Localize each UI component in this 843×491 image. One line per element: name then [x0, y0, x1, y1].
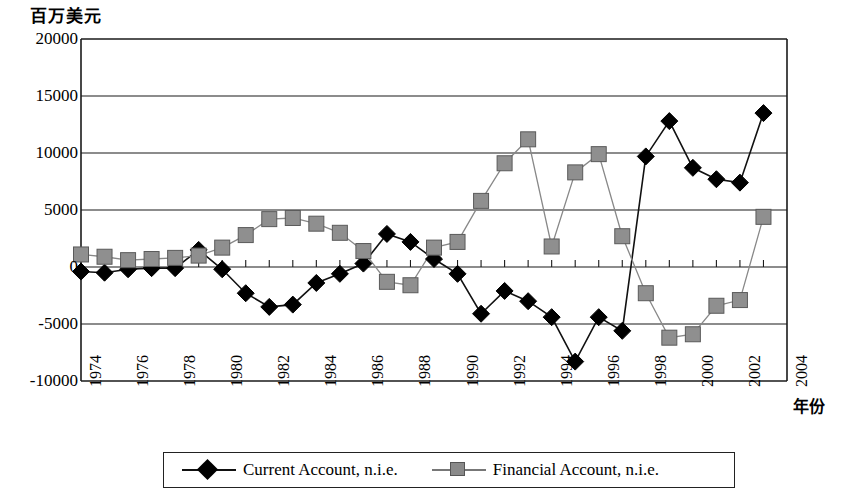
data-point-marker	[497, 156, 512, 171]
legend-item-current-account[interactable]: Current Account, n.i.e.	[182, 460, 398, 480]
data-point-marker	[215, 240, 230, 255]
square-marker	[432, 463, 486, 477]
data-point-marker	[402, 233, 419, 250]
x-axis-title: 年份	[793, 393, 825, 417]
data-point-marker	[732, 293, 747, 308]
x-tick-label: 2000	[699, 355, 717, 387]
data-point-marker	[544, 239, 559, 254]
x-tick-label: 1974	[87, 355, 105, 387]
data-point-marker	[638, 286, 653, 301]
legend-label-financial-account: Financial Account, n.i.e.	[493, 460, 659, 480]
y-tick-label: 15000	[6, 87, 78, 104]
data-point-marker	[262, 212, 277, 227]
data-point-marker	[378, 225, 395, 242]
x-tick-label: 1980	[228, 355, 246, 387]
legend-label-current-account: Current Account, n.i.e.	[243, 460, 398, 480]
data-point-marker	[590, 309, 607, 326]
data-point-marker	[191, 248, 206, 263]
y-tick-label: 10000	[6, 144, 78, 161]
data-point-marker	[520, 293, 537, 310]
data-point-marker	[637, 148, 654, 165]
data-point-marker	[615, 229, 630, 244]
x-tick-label: 1986	[369, 355, 387, 387]
x-tick-label: 1992	[511, 355, 529, 387]
data-point-marker	[238, 228, 253, 243]
plot-area	[0, 0, 843, 491]
y-tick-label: 20000	[6, 30, 78, 47]
data-point-marker	[168, 250, 183, 265]
data-point-marker	[449, 265, 466, 282]
data-point-marker	[261, 298, 278, 315]
data-point-marker	[755, 105, 772, 122]
data-point-marker	[331, 265, 348, 282]
data-point-marker	[474, 193, 489, 208]
x-tick-label: 1982	[275, 355, 293, 387]
data-point-marker	[285, 210, 300, 225]
data-point-marker	[144, 252, 159, 267]
chart-legend: Current Account, n.i.e. Financial Accoun…	[163, 452, 735, 488]
x-tick-label: 1988	[416, 355, 434, 387]
data-point-marker	[356, 244, 371, 259]
data-point-marker	[379, 274, 394, 289]
x-tick-label: 2004	[793, 355, 811, 387]
data-point-marker	[756, 209, 771, 224]
data-point-marker	[309, 216, 324, 231]
data-point-marker	[685, 327, 700, 342]
data-point-marker	[332, 225, 347, 240]
data-point-marker	[614, 322, 631, 339]
data-point-marker	[521, 132, 536, 147]
x-tick-label: 1976	[134, 355, 152, 387]
data-point-marker	[709, 298, 724, 313]
x-tick-label: 1984	[322, 355, 340, 387]
x-tick-label: 2002	[746, 355, 764, 387]
data-point-marker	[121, 253, 136, 268]
diamond-marker	[182, 463, 236, 477]
data-point-marker	[708, 171, 725, 188]
x-tick-label: 1998	[652, 355, 670, 387]
data-point-marker	[450, 234, 465, 249]
data-point-marker	[662, 330, 677, 345]
x-tick-label: 1994	[558, 355, 576, 387]
x-tick-label: 1996	[605, 355, 623, 387]
data-point-marker	[97, 249, 112, 264]
y-tick-label: 5000	[6, 201, 78, 218]
legend-item-financial-account[interactable]: Financial Account, n.i.e.	[432, 460, 659, 480]
y-axis-tick-labels: 20000150001000050000-5000-10000	[0, 0, 78, 491]
chart-figure: 百万美元 20000150001000050000-5000-10000 197…	[0, 0, 843, 491]
x-tick-label: 1978	[181, 355, 199, 387]
data-point-marker	[568, 165, 583, 180]
data-point-marker	[731, 174, 748, 191]
data-point-marker	[591, 147, 606, 162]
data-point-marker	[427, 240, 442, 255]
x-tick-label: 1990	[464, 355, 482, 387]
data-point-marker	[403, 278, 418, 293]
data-point-marker	[661, 113, 678, 130]
y-tick-label: 0	[6, 258, 78, 275]
data-point-marker	[543, 309, 560, 326]
y-tick-label: -10000	[6, 372, 78, 389]
y-tick-label: -5000	[6, 315, 78, 332]
data-point-marker	[684, 159, 701, 176]
